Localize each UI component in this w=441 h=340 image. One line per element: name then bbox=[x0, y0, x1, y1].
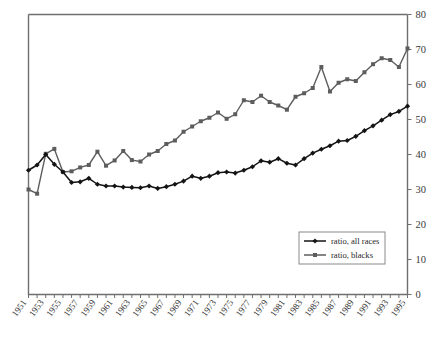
data-point bbox=[371, 62, 375, 66]
y-tick-label: 50 bbox=[416, 114, 427, 125]
data-point bbox=[233, 112, 237, 116]
data-point bbox=[87, 163, 91, 167]
data-point bbox=[242, 98, 246, 102]
data-point bbox=[302, 91, 306, 95]
y-tick-label: 20 bbox=[416, 219, 427, 230]
data-point bbox=[130, 158, 134, 162]
data-point bbox=[224, 169, 229, 174]
line-chart: 1951195319551957195919611963196519671969… bbox=[0, 0, 441, 340]
series-path bbox=[29, 106, 408, 188]
x-tick-label: 1979 bbox=[251, 297, 270, 318]
x-tick-label: 1957 bbox=[61, 297, 80, 318]
data-point bbox=[104, 164, 108, 168]
data-point bbox=[313, 253, 317, 257]
data-point bbox=[103, 183, 108, 188]
data-point bbox=[138, 160, 142, 164]
data-point bbox=[199, 119, 203, 123]
data-point bbox=[207, 174, 212, 179]
x-tick-label: 1951 bbox=[10, 297, 29, 318]
data-point bbox=[95, 150, 99, 154]
data-point bbox=[182, 130, 186, 134]
data-point bbox=[121, 149, 125, 153]
x-tick-label: 1993 bbox=[372, 297, 391, 318]
data-point bbox=[198, 176, 203, 181]
y-tick-label: 60 bbox=[416, 79, 427, 90]
data-point bbox=[225, 117, 229, 121]
x-tick-label: 1965 bbox=[130, 297, 149, 318]
data-point bbox=[336, 139, 341, 144]
data-point bbox=[164, 184, 169, 189]
data-point bbox=[380, 56, 384, 60]
data-point bbox=[215, 170, 220, 175]
x-tick-label: 1973 bbox=[199, 297, 218, 318]
chart-container: 1951195319551957195919611963196519671969… bbox=[0, 0, 441, 340]
y-tick-label: 70 bbox=[416, 44, 427, 55]
data-point bbox=[138, 185, 143, 190]
data-point bbox=[233, 170, 238, 175]
x-tick-label: 1971 bbox=[182, 297, 201, 318]
data-point bbox=[146, 183, 151, 188]
x-tick-label: 1963 bbox=[113, 297, 132, 318]
data-point bbox=[267, 160, 272, 165]
data-point bbox=[172, 182, 177, 187]
data-point bbox=[284, 161, 289, 166]
y-tick-label: 0 bbox=[416, 289, 421, 300]
data-point bbox=[285, 108, 289, 112]
data-point bbox=[345, 138, 350, 143]
data-point bbox=[276, 156, 281, 161]
y-tick-label: 10 bbox=[416, 254, 427, 265]
y-tick-label: 30 bbox=[416, 184, 427, 195]
x-tick-label: 1955 bbox=[44, 297, 63, 318]
data-point bbox=[327, 143, 332, 148]
data-point bbox=[52, 147, 56, 151]
data-point bbox=[156, 149, 160, 153]
data-point bbox=[397, 65, 401, 69]
data-point bbox=[207, 116, 211, 120]
x-tick-label: 1985 bbox=[303, 297, 322, 318]
x-tick-label: 1969 bbox=[165, 297, 184, 318]
x-tick-label: 1981 bbox=[268, 297, 287, 318]
data-point bbox=[190, 125, 194, 129]
data-point bbox=[319, 65, 323, 69]
x-tick-label: 1977 bbox=[234, 297, 253, 318]
x-tick-label: 1995 bbox=[389, 297, 408, 318]
data-point bbox=[173, 139, 177, 143]
x-tick-label: 1987 bbox=[320, 297, 339, 318]
data-point bbox=[27, 188, 31, 192]
data-point bbox=[147, 153, 151, 157]
data-point bbox=[268, 100, 272, 104]
x-tick-label: 1989 bbox=[337, 297, 356, 318]
y-axis-tick-labels: 01020304050607080 bbox=[416, 9, 427, 300]
y-tick-label: 40 bbox=[416, 149, 427, 160]
data-point bbox=[294, 95, 298, 99]
data-point bbox=[354, 79, 358, 83]
data-point bbox=[337, 81, 341, 85]
data-point bbox=[129, 185, 134, 190]
data-point bbox=[319, 147, 324, 152]
data-point bbox=[276, 104, 280, 108]
x-tick-label: 1967 bbox=[148, 297, 167, 318]
data-point bbox=[78, 165, 82, 169]
data-point bbox=[250, 100, 254, 104]
y-tick-label: 80 bbox=[416, 9, 427, 20]
data-point bbox=[345, 77, 349, 81]
series-ratio-all-races bbox=[26, 104, 410, 191]
data-point bbox=[388, 58, 392, 62]
x-tick-label: 1953 bbox=[27, 297, 46, 318]
data-point bbox=[311, 86, 315, 90]
chart-legend: ratio, all racesratio, blacks bbox=[299, 232, 385, 264]
x-tick-label: 1975 bbox=[216, 297, 235, 318]
data-point bbox=[406, 46, 410, 50]
data-point bbox=[112, 183, 117, 188]
x-tick-label: 1959 bbox=[79, 297, 98, 318]
data-point bbox=[259, 94, 263, 98]
data-point bbox=[362, 70, 366, 74]
x-tick-label: 1983 bbox=[285, 297, 304, 318]
data-point bbox=[216, 111, 220, 115]
data-point bbox=[78, 179, 83, 184]
data-point bbox=[121, 184, 126, 189]
legend-label: ratio, all races bbox=[331, 236, 380, 246]
legend-label: ratio, blacks bbox=[331, 250, 374, 260]
data-point bbox=[70, 169, 74, 173]
data-point bbox=[164, 142, 168, 146]
